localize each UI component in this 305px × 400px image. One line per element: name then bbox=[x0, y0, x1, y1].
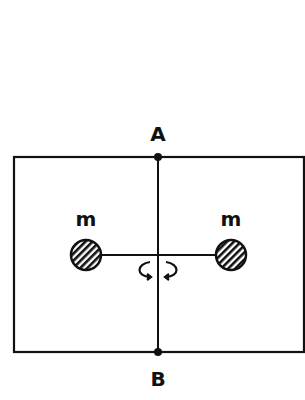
diagram-canvas: A B m m bbox=[0, 0, 305, 400]
label-mass-left: m bbox=[76, 207, 97, 231]
mass-right bbox=[216, 240, 246, 270]
pivot-point-b bbox=[154, 348, 162, 356]
label-mass-right: m bbox=[221, 207, 242, 231]
label-b: B bbox=[150, 367, 165, 391]
pivot-point-a bbox=[154, 153, 162, 161]
label-a: A bbox=[150, 122, 166, 146]
mass-left bbox=[71, 240, 101, 270]
